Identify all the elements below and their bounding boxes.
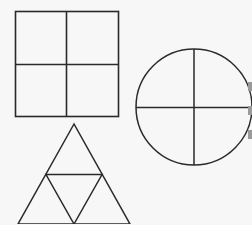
shapes-diagram xyxy=(0,0,252,224)
triangle-inner-divider xyxy=(46,175,102,225)
divided-square xyxy=(16,12,119,117)
edge-mark-bottom xyxy=(248,130,252,139)
divided-triangle xyxy=(18,124,130,224)
edge-mark-top xyxy=(248,82,252,91)
edge-mark-middle xyxy=(248,106,252,115)
divided-circle xyxy=(136,49,252,165)
